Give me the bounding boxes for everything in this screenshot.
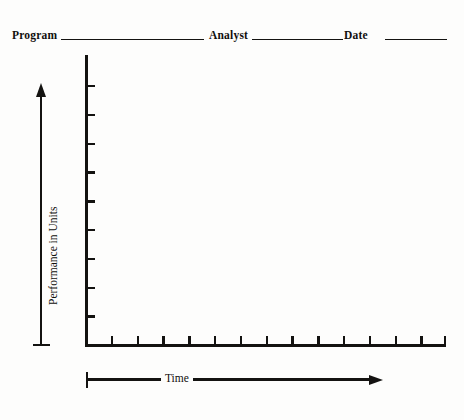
program-fill-in-line[interactable] bbox=[61, 39, 204, 40]
chart-form-page: Program Analyst Date bbox=[0, 0, 464, 420]
x-tick bbox=[444, 336, 446, 344]
x-tick bbox=[343, 336, 345, 344]
header-label-analyst: Analyst bbox=[209, 30, 248, 42]
y-axis-title: Performance in Units bbox=[48, 207, 60, 305]
x-tick bbox=[395, 336, 397, 344]
x-tick bbox=[111, 336, 113, 344]
y-tick bbox=[88, 258, 95, 260]
y-tick bbox=[88, 114, 95, 116]
x-axis-title: Time bbox=[161, 373, 193, 385]
x-tick bbox=[317, 336, 319, 344]
x-tick bbox=[188, 336, 190, 344]
y-tick bbox=[88, 315, 95, 317]
y-tick bbox=[88, 229, 95, 231]
analyst-fill-in-line[interactable] bbox=[252, 39, 343, 40]
plot-area[interactable] bbox=[86, 55, 446, 345]
header-label-program: Program bbox=[12, 30, 57, 42]
x-tick bbox=[137, 336, 139, 344]
arrow-right-icon bbox=[369, 375, 383, 385]
y-tick bbox=[88, 200, 95, 202]
y-caption-arrow-base-cap bbox=[33, 344, 50, 346]
y-tick bbox=[88, 287, 95, 289]
x-tick bbox=[369, 336, 371, 344]
arrow-up-icon bbox=[36, 83, 46, 97]
y-caption-arrow-shaft bbox=[40, 96, 42, 345]
y-tick bbox=[88, 143, 95, 145]
x-tick bbox=[162, 336, 164, 344]
x-axis-line bbox=[85, 344, 446, 347]
x-caption-arrow-shaft bbox=[87, 378, 371, 380]
x-tick bbox=[291, 336, 293, 344]
x-tick bbox=[240, 336, 242, 344]
x-tick bbox=[214, 336, 216, 344]
y-tick bbox=[88, 85, 95, 87]
date-fill-in-line[interactable] bbox=[385, 39, 447, 40]
x-tick bbox=[420, 336, 422, 344]
header-label-date: Date bbox=[344, 30, 368, 42]
y-tick bbox=[88, 171, 95, 173]
x-tick bbox=[266, 336, 268, 344]
